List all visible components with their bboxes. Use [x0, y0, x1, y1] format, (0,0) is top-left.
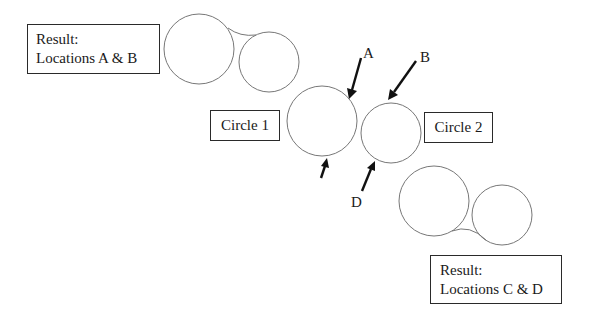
result-ab-connector-curve — [228, 28, 256, 35]
circle-1 — [287, 86, 357, 156]
point-d-label: D — [351, 195, 362, 210]
arrow-b-icon — [388, 61, 416, 100]
result-cd-text: Locations C & D — [440, 280, 561, 299]
result-ab-box: Result: Locations A & B — [27, 24, 160, 74]
result-cd-circle-pair — [399, 166, 532, 245]
circle-2 — [361, 103, 421, 163]
arrow-c-icon — [321, 158, 329, 178]
point-a-label: A — [363, 46, 374, 61]
result-ab-large-circle — [164, 14, 234, 84]
circle-2-label-box: Circle 2 — [424, 112, 493, 143]
result-ab-text: Locations A & B — [36, 49, 159, 68]
result-cd-large-circle — [399, 166, 469, 236]
circle-1-label: Circle 1 — [211, 116, 279, 135]
arrow-a-icon — [347, 58, 361, 99]
result-ab-heading: Result: — [36, 30, 159, 49]
circle-2-label: Circle 2 — [425, 118, 492, 137]
result-cd-box: Result: Locations C & D — [430, 255, 562, 304]
result-ab-circle-pair — [164, 14, 299, 92]
arrow-d-icon — [362, 161, 375, 191]
point-b-label: B — [420, 50, 430, 65]
result-cd-heading: Result: — [440, 261, 561, 280]
result-cd-connector-curve — [452, 229, 486, 240]
result-ab-small-circle — [239, 32, 299, 92]
circle-1-label-box: Circle 1 — [210, 110, 280, 141]
